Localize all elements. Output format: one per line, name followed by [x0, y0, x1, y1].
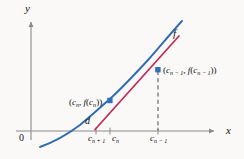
- point-sub-1: n − 1: [170, 70, 183, 76]
- tick-label-c-n-minus-1: cn − 1: [150, 134, 167, 144]
- tangent-line: [95, 36, 179, 130]
- origin-label: 0: [19, 133, 24, 143]
- point-sub-2: n − 1: [197, 70, 210, 76]
- point-marker-cn-minus-1: [155, 67, 160, 72]
- paren-close: ): [214, 65, 217, 75]
- paren-close: ): [99, 97, 102, 107]
- function-curve: [40, 21, 182, 147]
- point-label-cn: (cn, f(cn)): [69, 98, 102, 108]
- tick-label-c-n-plus-1: cn + 1: [88, 134, 105, 144]
- point-marker-cn: [107, 98, 112, 103]
- curve-label-f: f: [173, 28, 176, 39]
- newton-method-figure: y x 0 f d cn + 1 cn cn − 1 (cn, f(cn)) (…: [0, 0, 244, 159]
- d-label: d: [85, 116, 90, 126]
- x-axis-label: x: [226, 125, 231, 136]
- tick-subscript: n − 1: [154, 138, 167, 144]
- y-axis-label: y: [25, 3, 30, 14]
- point-label-cn-minus-1: (cn − 1, f(cn − 1)): [163, 66, 217, 76]
- tick-subscript: n: [116, 138, 119, 144]
- tick-label-c-n: cn: [112, 134, 119, 144]
- tick-subscript: n + 1: [92, 138, 105, 144]
- figure-canvas: [0, 0, 244, 159]
